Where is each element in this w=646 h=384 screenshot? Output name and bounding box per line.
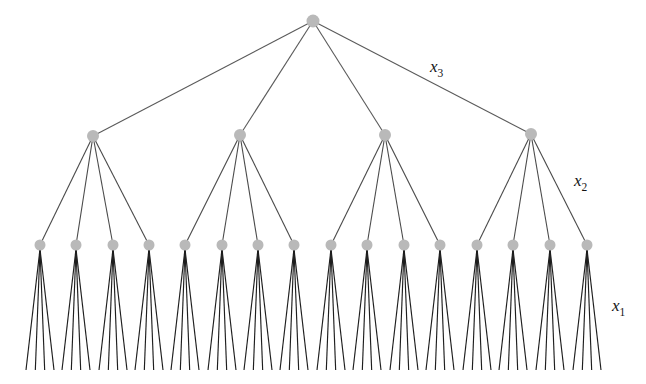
tree-node-l2-2 xyxy=(379,129,391,141)
tree-node-l2-0 xyxy=(87,130,99,142)
root-node-group xyxy=(307,15,320,28)
tree-diagram-container: x3x2x1 xyxy=(0,0,646,384)
tree-node-l3-1 xyxy=(71,240,82,251)
tree-node-l3-15 xyxy=(582,240,593,251)
tree-node-l3-7 xyxy=(289,240,300,251)
tree-node-l3-2 xyxy=(108,240,119,251)
tree-node-l2-3 xyxy=(525,128,537,140)
diagram-background xyxy=(0,0,646,384)
tree-node-l3-10 xyxy=(399,240,410,251)
tree-node-l3-0 xyxy=(35,240,46,251)
tree-node-l3-6 xyxy=(253,240,264,251)
tree-node-l2-1 xyxy=(234,129,246,141)
tree-node-l3-9 xyxy=(362,240,373,251)
tree-node-l3-13 xyxy=(508,240,519,251)
tree-node-l3-12 xyxy=(472,240,483,251)
tree-node-l3-14 xyxy=(545,240,556,251)
tree-node-root xyxy=(307,15,320,28)
tree-node-l3-8 xyxy=(326,240,337,251)
tree-node-l3-4 xyxy=(180,240,191,251)
tree-diagram-svg: x3x2x1 xyxy=(0,0,646,384)
tree-node-l3-5 xyxy=(217,240,228,251)
tree-node-l3-11 xyxy=(435,240,446,251)
tree-node-l3-3 xyxy=(144,240,155,251)
